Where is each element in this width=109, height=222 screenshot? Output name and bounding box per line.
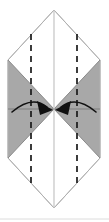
origami-diagram-figure [0,0,109,222]
origami-diagram-canvas [0,0,109,222]
